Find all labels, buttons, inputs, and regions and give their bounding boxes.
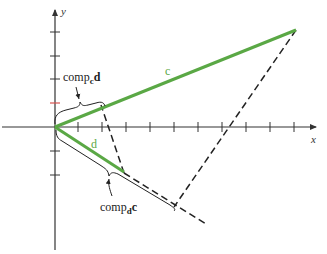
- vector-d-label: d: [91, 137, 97, 151]
- y-axis-label: y: [60, 5, 66, 17]
- comp-d-c-label: compdc: [100, 200, 138, 216]
- diagram-canvas: x y c d compcd compdc: [0, 0, 327, 254]
- perpendicular-from-c-to-d: [174, 30, 296, 207]
- vector-projection-diagram: x y c d compcd compdc: [0, 0, 327, 254]
- comp-d-c-arrow: [109, 179, 112, 196]
- x-axis-label: x: [310, 133, 316, 145]
- comp-d-c-brace: [56, 130, 175, 211]
- extension-of-d: [124, 173, 206, 224]
- vectors: c d: [55, 30, 296, 172]
- vector-d: [55, 127, 124, 172]
- comp-c-d-label: compcd: [63, 70, 101, 86]
- comp-c-d-arrow: [76, 87, 79, 99]
- vector-c-label: c: [165, 64, 170, 78]
